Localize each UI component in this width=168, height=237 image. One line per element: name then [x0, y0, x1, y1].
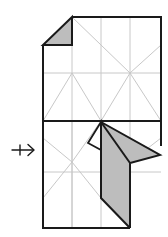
push-arrow-icon	[12, 145, 34, 156]
origami-diagram	[0, 0, 168, 237]
folded-corner-flap	[43, 17, 72, 45]
